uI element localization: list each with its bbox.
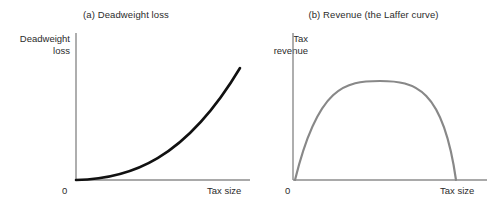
panel-a-origin-label: 0: [62, 185, 67, 196]
panel-a-x-axis-label: Tax size: [207, 185, 241, 196]
panel-a-y-axis-label: Deadweight loss: [8, 33, 70, 56]
figure-container: (a) Deadweight loss Deadweight loss 0 Ta…: [0, 0, 495, 214]
panel-b-y-axis-label: Tax revenue: [252, 33, 308, 56]
panel-deadweight-loss: (a) Deadweight loss Deadweight loss 0 Ta…: [0, 0, 252, 214]
panel-b-origin-label: 0: [285, 185, 290, 196]
panel-b-title: (b) Revenue (the Laffer curve): [252, 9, 495, 20]
panel-b-x-axis-label: Tax size: [440, 185, 474, 196]
panel-a-title: (a) Deadweight loss: [0, 9, 252, 20]
